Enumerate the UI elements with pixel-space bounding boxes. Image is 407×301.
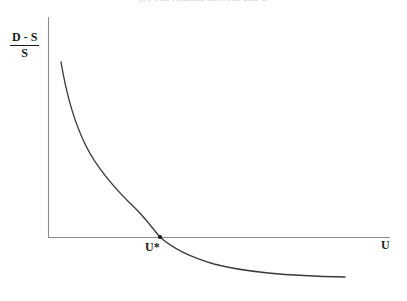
- y-axis-label-numerator: D - S: [10, 31, 39, 46]
- excess-demand-plot: [0, 0, 407, 301]
- equilibrium-point-marker: [158, 235, 162, 239]
- equilibrium-point-label: U*: [145, 240, 160, 255]
- y-axis-label-denominator: S: [10, 46, 39, 60]
- x-axis-label: U: [381, 238, 390, 253]
- figure-container: (b) The relation between and U D - S S U…: [0, 0, 407, 301]
- excess-demand-curve: [61, 62, 345, 277]
- y-axis-label: D - S S: [10, 31, 39, 59]
